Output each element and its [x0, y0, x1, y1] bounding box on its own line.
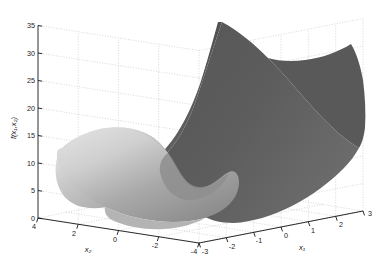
x2-tick-label: 2: [72, 229, 76, 238]
z-tick-label: 5: [31, 186, 35, 195]
x1-tick-label: -3: [202, 247, 208, 256]
surface-mesh: [56, 22, 366, 229]
z-tick-label: 20: [27, 104, 35, 113]
figure-canvas: 0 5 10 15 20 25 30 35 4 2 0 -2 -4: [0, 0, 379, 272]
x2-tick-label: 0: [113, 235, 117, 244]
x2-tick-label: 4: [32, 222, 36, 231]
z-axis-tick-labels: 0 5 10 15 20 25 30 35: [27, 21, 35, 223]
x2-tick-label: -4: [191, 247, 197, 256]
z-tick-label: 30: [27, 49, 35, 58]
x2-axis-title: x₂: [84, 245, 92, 254]
z-tick-label: 25: [27, 76, 35, 85]
x1-tick-label: 3: [368, 209, 372, 218]
x1-axis-title: x₁: [298, 243, 306, 252]
z-tick-label: 10: [27, 159, 35, 168]
z-axis-title: f(x₁,x₂): [9, 116, 18, 139]
x2-tick-label: -2: [152, 241, 158, 250]
z-tick-label: 35: [27, 21, 35, 30]
z-tick-label: 15: [27, 131, 35, 140]
x1-tick-label: 1: [311, 226, 315, 235]
x1-tick-label: 0: [284, 231, 288, 240]
z-axis-ticks: [38, 26, 42, 219]
surface-plot-svg: 0 5 10 15 20 25 30 35 4 2 0 -2 -4: [0, 0, 379, 272]
x1-tick-label: -1: [256, 236, 262, 245]
x1-tick-label: -2: [229, 242, 235, 251]
x1-tick-label: 2: [339, 220, 343, 229]
